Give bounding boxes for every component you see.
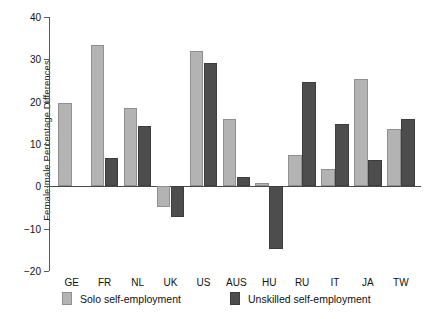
y-tick-label: 0 xyxy=(35,181,41,192)
legend-swatch-icon xyxy=(230,292,240,305)
y-tick-mark xyxy=(44,144,49,145)
y-tick-mark xyxy=(44,59,49,60)
bar-ja-solo xyxy=(354,79,368,186)
bar-group xyxy=(124,17,157,271)
y-tick-mark xyxy=(44,17,49,18)
bar-aus-unskilled xyxy=(237,177,251,186)
legend-label: Solo self-employment xyxy=(80,293,181,305)
bar-group xyxy=(387,17,420,271)
legend-item-unskilled[interactable]: Unskilled self-employment xyxy=(230,292,371,305)
bar-fr-solo xyxy=(91,45,105,186)
x-tick-label-fr: FR xyxy=(98,277,111,288)
bar-ja-unskilled xyxy=(368,160,382,187)
y-tick-label: 40 xyxy=(30,12,41,23)
bar-group xyxy=(354,17,387,271)
y-tick-label: 30 xyxy=(30,54,41,65)
bar-group xyxy=(223,17,256,271)
bar-ru-unskilled xyxy=(302,82,316,187)
x-tick-label-it: IT xyxy=(331,277,340,288)
y-tick-mark xyxy=(44,102,49,103)
bar-uk-solo xyxy=(157,186,171,207)
bar-tw-unskilled xyxy=(401,119,415,186)
x-tick-label-us: US xyxy=(196,277,210,288)
bar-group xyxy=(321,17,354,271)
bar-ge-solo xyxy=(58,103,72,186)
y-tick-mark xyxy=(44,229,49,230)
bar-it-unskilled xyxy=(335,124,349,186)
x-tick-label-ja: JA xyxy=(362,277,374,288)
chart-figure: Female-male Percentage Differences −20−1… xyxy=(0,0,427,319)
y-tick-mark xyxy=(44,271,49,272)
bar-nl-solo xyxy=(124,108,138,186)
bar-hu-unskilled xyxy=(269,186,283,249)
bar-us-solo xyxy=(190,51,204,186)
y-tick-label: −20 xyxy=(24,266,41,277)
bar-uk-unskilled xyxy=(171,186,185,217)
x-tick-label-tw: TW xyxy=(393,277,409,288)
y-tick-mark xyxy=(44,186,49,187)
x-tick-label-ge: GE xyxy=(65,277,79,288)
legend-label: Unskilled self-employment xyxy=(248,293,371,305)
bar-ru-solo xyxy=(288,155,302,187)
y-tick-label: −10 xyxy=(24,223,41,234)
bar-group xyxy=(255,17,288,271)
chart-legend: Solo self-employmentUnskilled self-emplo… xyxy=(0,290,427,314)
bar-group xyxy=(157,17,190,271)
bar-aus-solo xyxy=(223,119,237,186)
bar-group xyxy=(288,17,321,271)
bar-group xyxy=(190,17,223,271)
plot-area: −20−10010203040 GEFRNLUKUSAUSHURUITJATW xyxy=(49,17,421,271)
x-tick-label-uk: UK xyxy=(164,277,178,288)
x-tick-label-aus: AUS xyxy=(226,277,247,288)
legend-swatch-icon xyxy=(62,292,72,305)
bar-group xyxy=(58,17,91,271)
legend-item-solo[interactable]: Solo self-employment xyxy=(62,292,181,305)
y-tick-label: 10 xyxy=(30,139,41,150)
bar-it-solo xyxy=(321,169,335,186)
x-tick-label-hu: HU xyxy=(262,277,276,288)
bar-us-unskilled xyxy=(204,63,218,187)
x-tick-label-ru: RU xyxy=(295,277,309,288)
bar-tw-solo xyxy=(387,129,401,186)
y-axis-line xyxy=(49,17,50,271)
y-tick-label: 20 xyxy=(30,96,41,107)
bar-group xyxy=(91,17,124,271)
bar-hu-solo xyxy=(255,183,269,186)
bar-fr-unskilled xyxy=(105,158,119,186)
x-tick-label-nl: NL xyxy=(131,277,144,288)
bar-nl-unskilled xyxy=(138,126,152,186)
